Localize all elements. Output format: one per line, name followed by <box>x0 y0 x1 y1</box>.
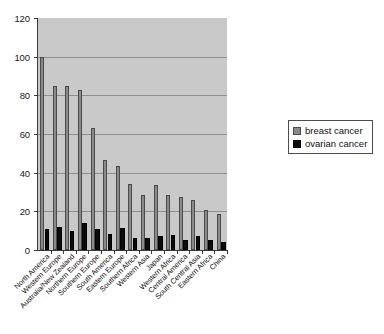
bar-breast-cancer <box>204 210 208 250</box>
bar-breast-cancer <box>53 86 57 250</box>
bar-breast-cancer <box>141 195 145 250</box>
bar-group <box>114 18 127 250</box>
y-tick-label: 40 <box>4 168 30 177</box>
bar-group <box>202 18 215 250</box>
bar-ovarian-cancer <box>221 242 226 250</box>
bar-group <box>76 18 89 250</box>
bar-group <box>139 18 152 250</box>
bar-ovarian-cancer <box>45 229 50 250</box>
bar-ovarian-cancer <box>57 227 62 250</box>
bar-ovarian-cancer <box>196 236 201 250</box>
y-axis: 120100806040200 <box>0 0 30 250</box>
bar-ovarian-cancer <box>70 231 75 250</box>
bars-layer <box>38 18 227 250</box>
y-tick-label: 80 <box>4 91 30 100</box>
bar-breast-cancer <box>179 197 183 250</box>
bar-group <box>88 18 101 250</box>
bar-breast-cancer <box>91 128 95 250</box>
y-tick-label: 20 <box>4 207 30 216</box>
y-tick-label: 0 <box>4 246 30 255</box>
bar-group <box>189 18 202 250</box>
bar-chart: 120100806040200 North AmericaWestern Eur… <box>0 0 384 334</box>
bar-breast-cancer <box>65 86 69 250</box>
bar-ovarian-cancer <box>171 235 176 250</box>
legend-item: breast cancer <box>293 124 367 137</box>
legend-label: breast cancer <box>305 125 363 136</box>
bar-group <box>101 18 114 250</box>
x-axis-labels: North AmericaWestern EuropeAustralia/New… <box>37 252 237 334</box>
bar-group <box>151 18 164 250</box>
legend-swatch-icon <box>293 140 301 148</box>
bar-ovarian-cancer <box>208 240 213 250</box>
bar-ovarian-cancer <box>95 229 100 250</box>
bar-group <box>38 18 51 250</box>
y-tick-label: 120 <box>4 14 30 23</box>
bar-breast-cancer <box>78 90 82 250</box>
y-tick-label: 60 <box>4 130 30 139</box>
bar-group <box>164 18 177 250</box>
legend-label: ovarian cancer <box>305 138 367 149</box>
bar-group <box>63 18 76 250</box>
y-tick-mark <box>34 250 38 251</box>
legend-item: ovarian cancer <box>293 137 367 150</box>
plot-area <box>37 18 227 251</box>
bar-breast-cancer <box>128 184 132 250</box>
bar-ovarian-cancer <box>133 238 138 250</box>
bar-breast-cancer <box>40 57 44 250</box>
bar-breast-cancer <box>217 214 221 250</box>
bar-ovarian-cancer <box>158 236 163 251</box>
bar-breast-cancer <box>154 185 158 250</box>
y-tick-label: 100 <box>4 52 30 61</box>
legend: breast cancerovarian cancer <box>288 120 373 154</box>
bar-breast-cancer <box>166 195 170 250</box>
bar-breast-cancer <box>116 166 120 250</box>
bar-breast-cancer <box>103 160 107 250</box>
bar-ovarian-cancer <box>108 234 113 250</box>
bar-breast-cancer <box>191 200 195 250</box>
bar-ovarian-cancer <box>145 238 150 250</box>
bar-group <box>51 18 64 250</box>
bar-group <box>214 18 227 250</box>
bar-ovarian-cancer <box>183 240 188 250</box>
bar-ovarian-cancer <box>82 223 87 250</box>
bar-group <box>177 18 190 250</box>
bar-ovarian-cancer <box>120 228 125 250</box>
bar-group <box>126 18 139 250</box>
legend-swatch-icon <box>293 127 301 135</box>
